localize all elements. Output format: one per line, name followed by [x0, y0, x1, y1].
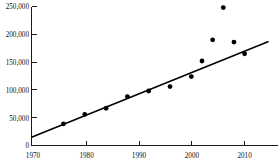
x-tick-label: 1990	[132, 152, 147, 160]
y-axis-ticks	[32, 7, 37, 146]
data-point	[232, 40, 237, 45]
y-axis-tick-labels: 250,000 200,000 150,000 100,000 50,000 0	[6, 3, 30, 150]
x-axis-tick-labels: 1970 1980 1990 2000 2010	[26, 152, 252, 160]
x-tick-label: 2000	[185, 152, 200, 160]
y-tick-label: 200,000	[6, 31, 30, 39]
data-point	[242, 51, 247, 56]
data-point	[168, 84, 173, 89]
data-point	[200, 59, 205, 64]
data-point	[221, 5, 226, 10]
x-tick-label: 2010	[237, 152, 252, 160]
chart-figure: 250,000 200,000 150,000 100,000 50,000 0…	[0, 0, 280, 164]
data-point	[189, 74, 194, 79]
y-tick-label: 0	[25, 142, 29, 150]
data-point-group	[61, 5, 247, 126]
data-point	[104, 106, 109, 111]
data-point	[146, 89, 151, 94]
data-point	[61, 121, 66, 126]
x-axis-ticks	[32, 141, 245, 146]
y-tick-label: 150,000	[6, 59, 30, 67]
x-tick-label: 1970	[26, 152, 41, 160]
y-tick-label: 100,000	[6, 87, 30, 95]
data-point	[82, 112, 87, 117]
scatter-plot-canvas: 250,000 200,000 150,000 100,000 50,000 0…	[0, 0, 280, 164]
axis-spines	[32, 7, 279, 146]
x-tick-label: 1980	[79, 152, 94, 160]
data-point	[210, 37, 215, 42]
y-tick-label: 250,000	[6, 3, 30, 11]
y-tick-label: 50,000	[9, 115, 29, 123]
data-point	[125, 94, 130, 99]
